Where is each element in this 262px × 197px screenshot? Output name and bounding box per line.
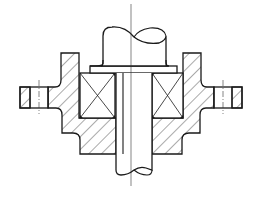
flange-left — [20, 80, 48, 114]
bearing-left — [80, 73, 115, 118]
section-drawing — [0, 0, 262, 197]
drawing-canvas: Bearing housing with shaft - sectional v… — [0, 0, 262, 197]
flange-right — [214, 80, 242, 114]
bearing-right — [152, 73, 183, 118]
